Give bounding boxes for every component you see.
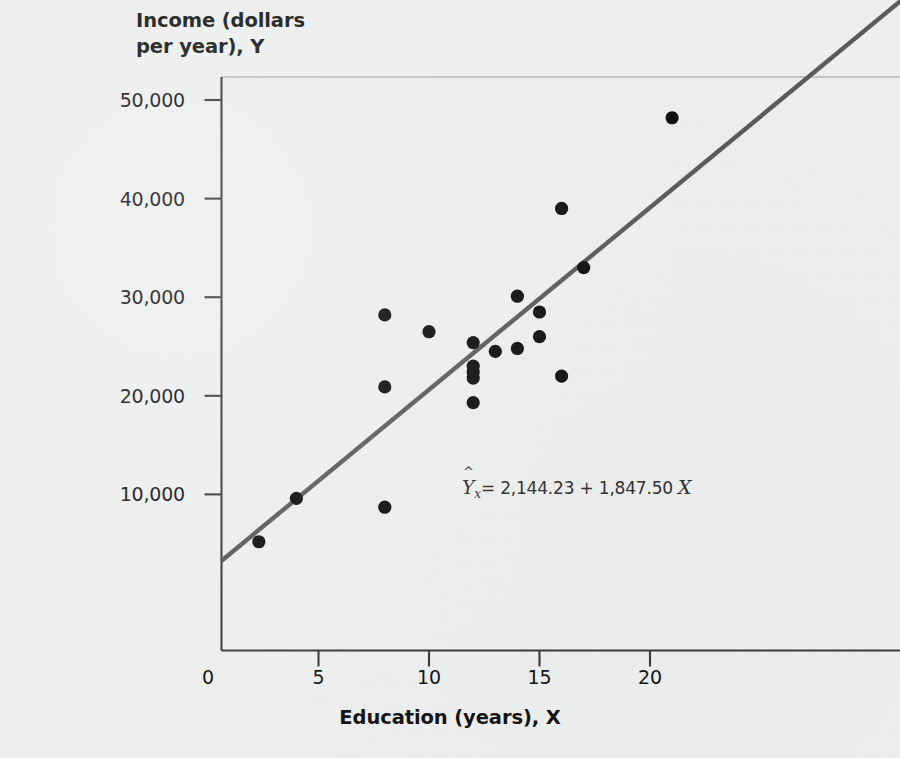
regression-line [221,0,900,561]
data-point [511,342,524,355]
data-point [555,369,568,382]
data-point [489,345,502,358]
axis-frame [222,77,900,651]
data-point [577,261,590,274]
data-point [422,325,435,338]
data-point [290,492,303,505]
tick-marks [205,100,651,667]
data-point [511,290,524,303]
data-point [533,330,546,343]
data-point [467,396,480,409]
scatterplot-figure: Income (dollarsper year), Y Education (y… [0,0,900,758]
data-point [467,336,480,349]
data-point [378,308,391,321]
data-point [378,501,391,514]
plot-area [0,0,900,758]
data-point [555,202,568,215]
data-point [467,360,480,373]
data-point [533,305,546,318]
regression-line-path [221,0,900,561]
data-point [666,111,679,124]
data-point [252,535,265,548]
data-point [378,380,391,393]
